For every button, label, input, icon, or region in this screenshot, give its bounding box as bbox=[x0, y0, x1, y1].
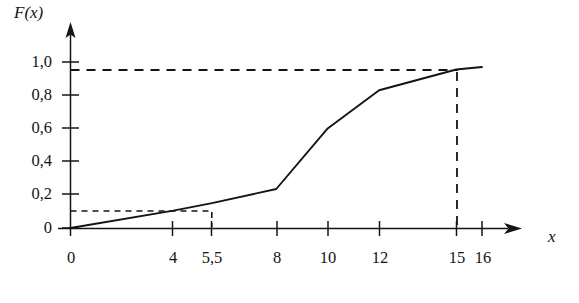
x-tick-label-16: 16 bbox=[463, 250, 503, 267]
y-tick-label-0.2: 0,2 bbox=[6, 186, 52, 203]
x-origin-label: 0 bbox=[52, 250, 90, 267]
x-tick-label-5.5: 5,5 bbox=[188, 250, 236, 267]
y-tick-label-1.0: 1,0 bbox=[6, 54, 52, 71]
x-tick-label-4: 4 bbox=[154, 250, 192, 267]
y-tick-label-0.4: 0,4 bbox=[6, 153, 52, 170]
y-axis-title: F(x) bbox=[14, 4, 43, 21]
y-tick-label-0.8: 0,8 bbox=[6, 87, 52, 104]
y-tick-label-0.6: 0,6 bbox=[6, 120, 52, 137]
x-tick-label-8: 8 bbox=[258, 250, 296, 267]
y-axis-group bbox=[66, 22, 76, 236]
cdf-chart-figure: 1,0 0,8 0,6 0,4 0,2 0 0 4 5,5 8 10 12 15… bbox=[0, 0, 579, 303]
x-tick-label-10: 10 bbox=[308, 250, 348, 267]
construction-guides bbox=[71, 70, 459, 227]
x-axis-title: x bbox=[548, 228, 556, 245]
x-tick-label-12: 12 bbox=[360, 250, 400, 267]
cdf-curve bbox=[71, 67, 483, 228]
y-tick-label-0: 0 bbox=[6, 220, 52, 237]
x-axis-group bbox=[58, 223, 522, 234]
